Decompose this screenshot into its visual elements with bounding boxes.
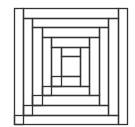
strip-top-5 <box>62 48 81 57</box>
strip-left-3 <box>33 28 43 106</box>
strip-right-outer <box>119 9 128 125</box>
strip-bottom-4 <box>43 87 90 96</box>
strip-right-2 <box>109 19 119 116</box>
strip-right-5 <box>81 48 90 87</box>
strip-right-3 <box>100 28 109 106</box>
strip-center <box>62 57 81 77</box>
strip-bottom-2 <box>24 106 109 116</box>
strip-top-2 <box>33 19 109 28</box>
strip-bottom-outer <box>15 116 119 125</box>
strip-left-outer <box>15 9 24 125</box>
strip-top-outer <box>24 9 119 19</box>
strip-left-2 <box>24 19 33 116</box>
strip-left-5 <box>52 48 62 87</box>
log-cabin-diagram <box>0 0 135 127</box>
strip-top-4 <box>52 38 90 48</box>
strip-right-4 <box>90 38 100 96</box>
strip-top-3 <box>43 28 100 38</box>
strip-bottom-5 <box>52 77 81 87</box>
